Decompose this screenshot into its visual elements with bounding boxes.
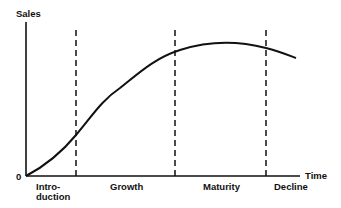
stage-label-introduction-2: duction bbox=[36, 192, 70, 202]
stage-label-growth: Growth bbox=[110, 182, 143, 192]
stage-label-decline: Decline bbox=[274, 182, 308, 192]
sales-curve bbox=[26, 43, 296, 176]
stage-label-maturity: Maturity bbox=[203, 182, 240, 192]
x-axis-label: Time bbox=[305, 171, 327, 181]
origin-label: 0 bbox=[16, 172, 21, 182]
life-cycle-diagram bbox=[0, 0, 341, 208]
y-axis-label: Sales bbox=[16, 9, 41, 19]
